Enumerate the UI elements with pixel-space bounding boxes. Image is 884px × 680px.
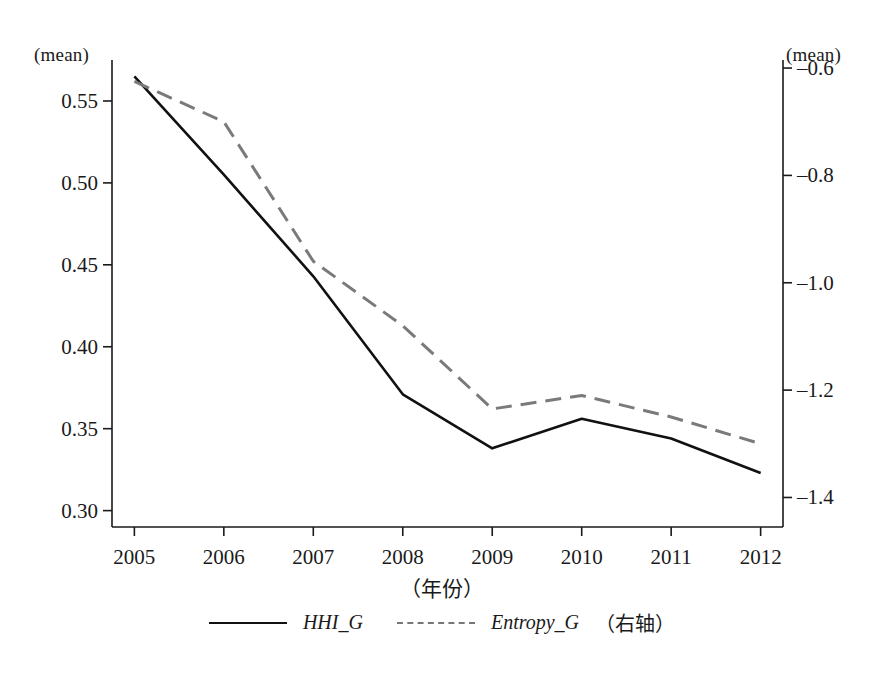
legend-swatch-dashed-icon: [397, 622, 475, 624]
series-layer: [134, 76, 760, 473]
left-tick-label: 0.35: [34, 416, 98, 441]
x-tick-label: 2010: [561, 545, 603, 570]
legend-label: HHI_G: [303, 611, 363, 634]
x-tick-label: 2005: [113, 545, 155, 570]
x-tick-label: 2012: [740, 545, 782, 570]
right-tick-label: –1.2: [797, 378, 834, 403]
series-line-hhi_g: [134, 76, 760, 473]
x-tick-label: 2008: [382, 545, 424, 570]
x-tick-label: 2011: [651, 545, 692, 570]
right-tick-label: –0.8: [797, 163, 834, 188]
left-tick-label: 0.55: [34, 88, 98, 113]
right-tick-label: –0.6: [797, 56, 834, 81]
left-tick-label: 0.50: [34, 170, 98, 195]
left-tick-label: 0.40: [34, 334, 98, 359]
series-line-entropy_g: [134, 81, 760, 443]
x-tick-label: 2009: [471, 545, 513, 570]
left-tick-label: 0.45: [34, 252, 98, 277]
x-axis-title: （年份）: [0, 572, 884, 602]
right-tick-label: –1.4: [797, 485, 834, 510]
left-tick-label: 0.30: [34, 498, 98, 523]
legend-swatch-solid-icon: [209, 622, 287, 624]
chart-figure: (mean) (mean) 0.300.350.400.450.500.55–0…: [0, 0, 884, 680]
x-tick-label: 2006: [203, 545, 245, 570]
left-axis-unit-label: (mean): [34, 44, 89, 66]
x-tick-label: 2007: [292, 545, 334, 570]
chart-legend: HHI_GEntropy_G（右轴）: [0, 608, 884, 637]
tick-marks: [103, 68, 792, 536]
plot-frame: [112, 60, 783, 527]
legend-item-entropy_g[interactable]: Entropy_G（右轴）: [397, 608, 675, 637]
legend-note: （右轴）: [595, 608, 675, 637]
legend-item-hhi_g[interactable]: HHI_G: [209, 611, 363, 634]
legend-label: Entropy_G: [491, 611, 579, 634]
right-tick-label: –1.0: [797, 270, 834, 295]
